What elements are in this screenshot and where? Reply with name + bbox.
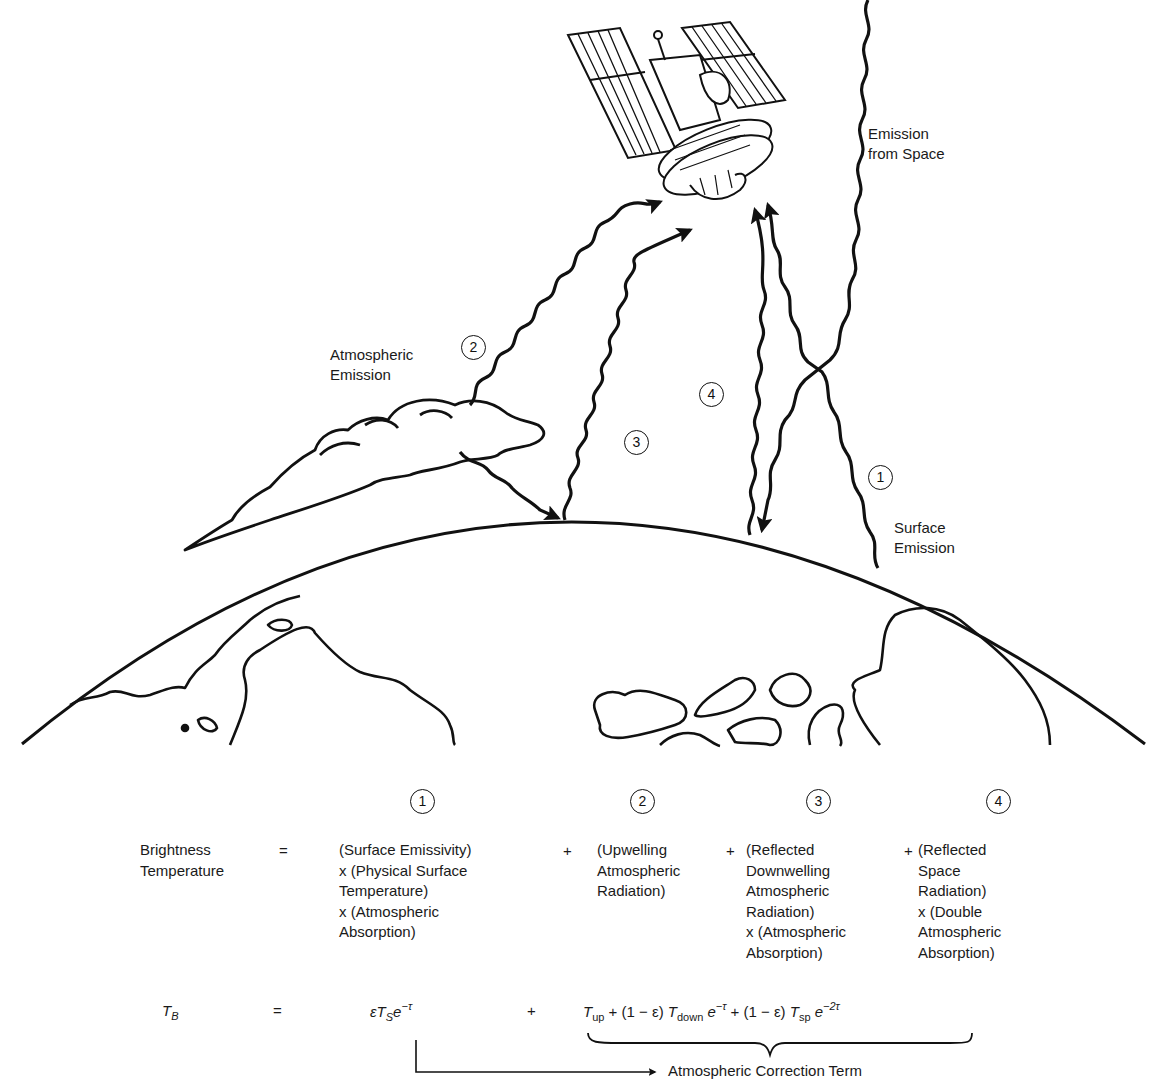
formula-lhs: TB (162, 1002, 179, 1022)
correction-arrow (416, 1040, 655, 1072)
path-3-reflected-up (564, 230, 690, 520)
marker-1: 1 (868, 465, 893, 490)
label-emission-from-space: Emission from Space (868, 124, 945, 164)
term-1-number: 1 (410, 789, 435, 814)
marker-3: 3 (624, 430, 649, 455)
plus-sign-2: + (726, 842, 735, 859)
satellite-illustration (568, 22, 785, 207)
formula-equals: = (273, 1002, 282, 1019)
marker-4: 4 (699, 382, 724, 407)
term-3-description: (Reflected Downwelling Atmospheric Radia… (746, 840, 846, 963)
label-atmospheric-emission: Atmospheric Emission (330, 345, 413, 385)
path-3-downwelling (460, 452, 558, 518)
term-4-description: (Reflected Space Radiation) x (Double At… (918, 840, 1001, 963)
path-1-surface-emission (768, 205, 878, 568)
correction-brace (588, 1033, 972, 1055)
term-1-description: (Surface Emissivity) x (Physical Surface… (339, 840, 472, 943)
formula-plus: + (527, 1002, 536, 1019)
path-4-space-down (762, 0, 869, 530)
continent-outlines (70, 596, 1050, 746)
lhs-brightness-temperature: Brightness Temperature (140, 840, 224, 881)
plus-sign-3: + (904, 842, 913, 859)
path-4-up (749, 210, 766, 535)
equals-sign: = (279, 842, 288, 859)
marker-2: 2 (461, 335, 486, 360)
term-2-description: (Upwelling Atmospheric Radiation) (597, 840, 680, 902)
term-2-number: 2 (630, 789, 655, 814)
plus-sign-1: + (563, 842, 572, 859)
path-2-atmospheric-upwelling (470, 202, 660, 405)
label-surface-emission: Surface Emission (894, 518, 955, 558)
term-4-number: 4 (986, 789, 1011, 814)
formula-correction-terms: Tup + (1 − ε) Tdown e−τ + (1 − ε) Tsp e−… (583, 1000, 840, 1023)
formula-term-1: εTSe−τ (370, 1000, 412, 1023)
atmospheric-correction-term-label: Atmospheric Correction Term (668, 1061, 862, 1081)
term-3-number: 3 (806, 789, 831, 814)
